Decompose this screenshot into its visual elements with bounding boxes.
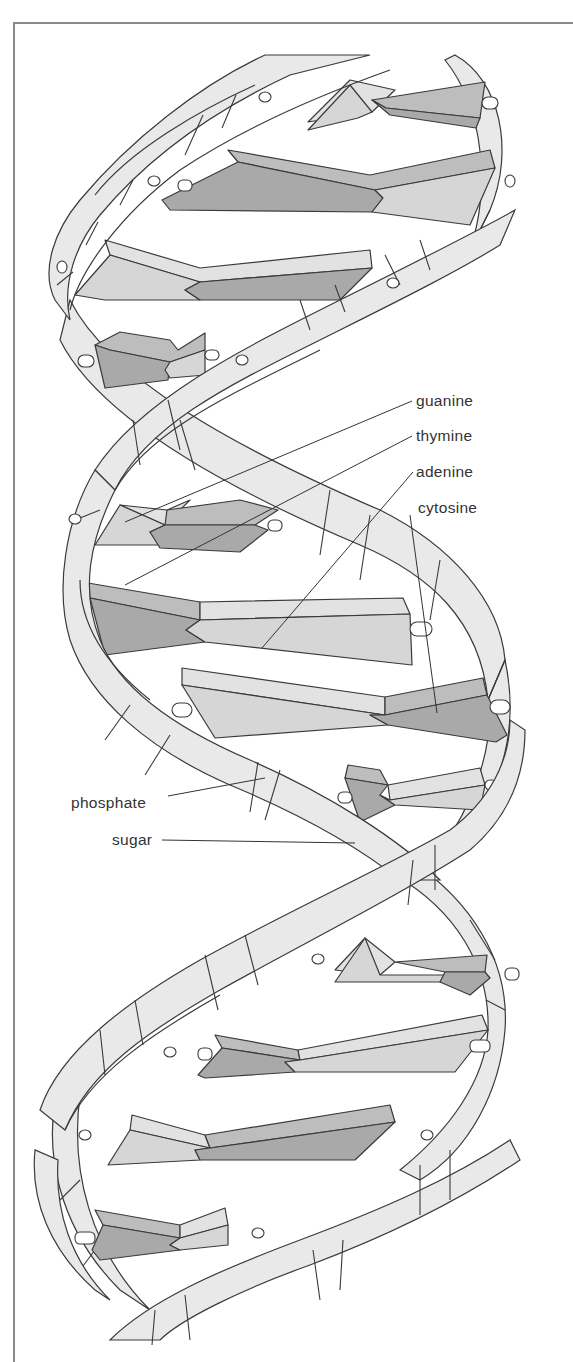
base-pair-1 [308,80,498,130]
leader-sugar [162,840,355,843]
base-pair-3 [75,240,372,300]
label-thymine: thymine [416,428,472,444]
label-adenine: adenine [416,464,473,480]
base-pair-6 [70,583,432,665]
base-pair-2 [162,150,495,225]
label-sugar: sugar [112,832,152,848]
base-pair-11 [108,1105,395,1165]
label-phosphate: phosphate [71,795,146,811]
base-pair-7 [172,668,510,742]
label-cytosine: cytosine [418,500,477,516]
base-pair-10 [198,1015,490,1078]
base-pair-5 [95,500,282,552]
label-guanine: guanine [416,393,473,409]
